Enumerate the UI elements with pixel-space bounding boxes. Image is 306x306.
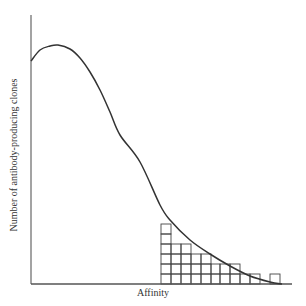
histogram-cell xyxy=(171,264,181,274)
histogram-cell xyxy=(171,274,181,284)
histogram-cell xyxy=(161,234,171,244)
histogram-cell xyxy=(220,274,230,284)
histogram-cell xyxy=(171,244,181,254)
histogram-cell xyxy=(191,274,201,284)
x-axis-label: Affinity xyxy=(137,287,169,298)
histogram-cell xyxy=(191,254,201,264)
distribution-curve xyxy=(31,45,282,284)
histogram-cell xyxy=(201,274,211,284)
histogram-cell xyxy=(181,264,191,274)
histogram-cell xyxy=(230,274,240,284)
histogram-cell xyxy=(181,274,191,284)
histogram-cell xyxy=(161,254,171,264)
histogram-cells xyxy=(161,224,280,284)
histogram-cell xyxy=(201,254,211,264)
histogram-cell xyxy=(161,264,171,274)
histogram-cell xyxy=(171,254,181,264)
histogram-cell xyxy=(161,244,171,254)
histogram-cell xyxy=(211,274,220,284)
histogram-cell xyxy=(181,244,191,254)
y-axis-label: Number of antibody-producing clones xyxy=(8,78,19,231)
histogram-cell xyxy=(181,254,191,264)
histogram-cell xyxy=(161,274,171,284)
histogram-cell xyxy=(211,264,220,274)
histogram-cell xyxy=(191,264,201,274)
affinity-distribution-figure xyxy=(0,0,306,306)
histogram-cell xyxy=(161,224,171,234)
histogram-cell xyxy=(201,264,211,274)
